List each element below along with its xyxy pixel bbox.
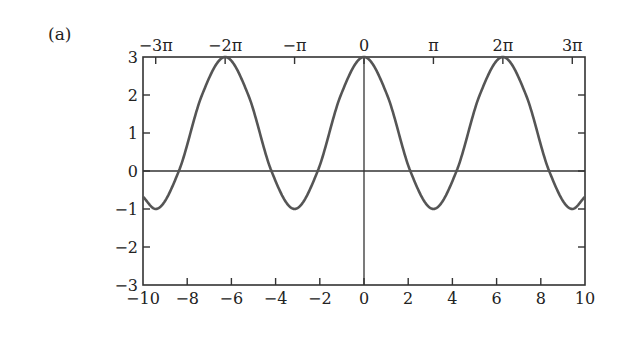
x-tick-label-bottom: −8: [175, 289, 199, 308]
x-tick-label-top: −3π: [139, 36, 173, 55]
y-tick-label: 3: [128, 48, 138, 67]
x-tick-label-bottom: 10: [575, 289, 595, 308]
x-tick-label-bottom: 8: [536, 289, 546, 308]
x-tick-label-top: 0: [359, 36, 369, 55]
x-axis-bottom: −10−8−6−4−20246810: [126, 278, 595, 308]
x-axis-top: −3π−2π−π0π2π3π: [139, 36, 583, 64]
y-axis-left: −3−2−10123: [114, 48, 150, 295]
x-tick-label-top: −π: [283, 36, 307, 55]
x-tick-label-bottom: −2: [308, 289, 332, 308]
y-tick-label: −3: [114, 276, 138, 295]
y-tick-label: −1: [114, 200, 138, 219]
y-tick-label: 0: [128, 162, 138, 181]
y-tick-label: 1: [128, 124, 138, 143]
y-tick-label: −2: [114, 238, 138, 257]
reference-lines: [143, 57, 585, 285]
y-axis-right: [578, 95, 585, 247]
x-tick-label-bottom: 0: [359, 289, 369, 308]
x-tick-label-top: −2π: [208, 36, 242, 55]
x-tick-label-top: 3π: [562, 36, 583, 55]
x-tick-label-bottom: 6: [492, 289, 502, 308]
x-tick-label-top: 2π: [493, 36, 514, 55]
y-tick-label: 2: [128, 86, 138, 105]
x-tick-label-bottom: −6: [220, 289, 244, 308]
x-tick-label-bottom: 4: [447, 289, 457, 308]
x-tick-label-bottom: −4: [264, 289, 288, 308]
x-tick-label-bottom: 2: [403, 289, 413, 308]
chart: −10−8−6−4−20246810 −3π−2π−π0π2π3π −3−2−1…: [0, 0, 624, 338]
x-tick-label-top: π: [428, 36, 439, 55]
